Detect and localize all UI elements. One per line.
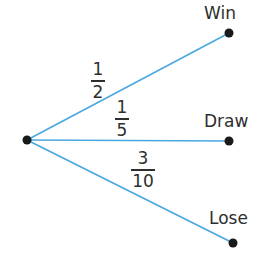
- draw-denominator: 5: [117, 122, 128, 139]
- win-node: [225, 29, 234, 38]
- probability-tree-diagram: Win Draw Lose 1 2 1 5 3 10: [0, 0, 268, 264]
- win-numerator: 1: [93, 61, 104, 78]
- outcome-label-draw: Draw: [204, 113, 248, 130]
- lose-denominator: 10: [132, 173, 154, 190]
- probability-lose: 3 10: [131, 150, 155, 190]
- outcome-label-lose: Lose: [209, 210, 248, 227]
- root-node: [23, 136, 32, 145]
- branch-draw: [27, 140, 229, 141]
- win-denominator: 2: [93, 84, 104, 101]
- outcome-label-win: Win: [204, 5, 236, 22]
- lose-node: [229, 239, 238, 248]
- draw-node: [225, 137, 234, 146]
- probability-win: 1 2: [91, 61, 105, 101]
- draw-numerator: 1: [117, 99, 128, 116]
- branch-lose: [27, 140, 233, 243]
- lose-numerator: 3: [138, 150, 149, 167]
- probability-draw: 1 5: [115, 99, 129, 139]
